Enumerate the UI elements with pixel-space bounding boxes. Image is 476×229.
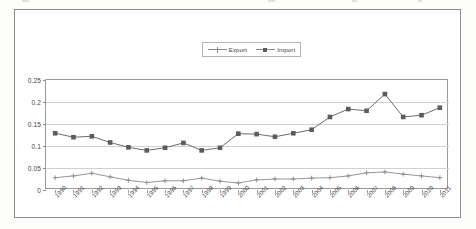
data-point-export-2004 — [309, 176, 314, 181]
import-line-marker-icon — [256, 46, 275, 53]
scan-artifact — [22, 0, 29, 2]
plot-area: 00.050.10.150.20.25 19901991199219931994… — [45, 79, 448, 189]
data-point-export-2006 — [346, 174, 351, 179]
data-point-export-1995 — [144, 180, 149, 185]
data-point-import-1996 — [163, 145, 168, 150]
data-point-import-2002 — [273, 134, 278, 139]
data-point-export-1994 — [126, 178, 131, 183]
data-point-export-1997 — [181, 178, 186, 183]
data-point-export-1992 — [89, 171, 94, 176]
data-point-import-1998 — [199, 148, 204, 153]
data-point-import-1994 — [126, 145, 131, 150]
data-point-import-1992 — [90, 134, 95, 139]
data-point-export-2001 — [254, 177, 259, 182]
data-point-import-1991 — [71, 135, 76, 140]
legend-entry-import: Import — [256, 46, 295, 53]
y-tick-label: 0.05 — [11, 165, 41, 172]
data-point-export-2003 — [291, 177, 296, 182]
data-point-import-2001 — [254, 132, 259, 137]
series-line-export — [55, 172, 440, 183]
data-series-layer — [46, 80, 449, 190]
data-point-export-2008 — [382, 170, 387, 175]
data-point-export-1990 — [53, 175, 58, 180]
data-point-import-1995 — [144, 148, 149, 153]
y-tick-mark — [43, 190, 46, 191]
data-point-import-2004 — [309, 127, 314, 132]
data-point-export-2002 — [273, 177, 278, 182]
data-point-import-2007 — [364, 109, 369, 114]
y-tick-label: 0.15 — [11, 121, 41, 128]
data-point-import-2009 — [401, 115, 406, 120]
legend-label-import: Import — [277, 46, 295, 53]
data-point-import-1997 — [181, 141, 186, 146]
data-point-export-2000 — [236, 181, 241, 186]
data-point-import-1990 — [53, 131, 58, 136]
data-point-import-2000 — [236, 131, 241, 136]
data-point-import-2011 — [438, 105, 443, 110]
scan-artifact — [352, 0, 357, 2]
y-tick-label: 0.25 — [11, 77, 41, 84]
y-tick-label: 0.2 — [11, 99, 41, 106]
data-point-import-2008 — [383, 92, 388, 97]
y-tick-label: 0.1 — [11, 143, 41, 150]
legend-label-export: Export — [229, 46, 247, 53]
data-point-export-1993 — [108, 174, 113, 179]
data-point-import-2003 — [291, 131, 296, 136]
data-point-export-2005 — [328, 175, 333, 180]
y-tick-label: 0 — [11, 187, 41, 194]
data-point-import-2006 — [346, 107, 351, 112]
data-point-import-1993 — [108, 140, 113, 145]
scan-artifact — [418, 0, 422, 2]
data-point-import-1999 — [218, 145, 223, 150]
legend-entry-export: Export — [208, 46, 247, 53]
scan-artifact — [268, 0, 275, 2]
data-point-export-1996 — [163, 178, 168, 183]
data-point-export-2009 — [401, 172, 406, 177]
chart-figure: Export Import 00.050.10.150.20.25 199019… — [0, 0, 476, 229]
data-point-export-2010 — [419, 174, 424, 179]
data-point-export-2011 — [437, 175, 442, 180]
data-point-export-1998 — [199, 176, 204, 181]
series-line-import — [55, 94, 440, 150]
data-point-import-2005 — [328, 115, 333, 120]
export-line-marker-icon — [208, 46, 227, 53]
chart-legend: Export Import — [202, 42, 301, 57]
data-point-export-1991 — [71, 174, 76, 179]
data-point-export-2007 — [364, 170, 369, 175]
data-point-import-2010 — [419, 113, 424, 118]
data-point-export-1999 — [218, 179, 223, 184]
